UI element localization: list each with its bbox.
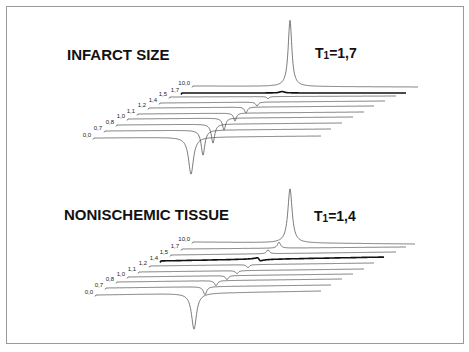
spectrum-line	[104, 129, 331, 155]
figure-canvas: INFARCT SIZE T1=1,7 10,01,71,51,41,21,11…	[0, 0, 469, 352]
series-label: 10,0	[178, 236, 190, 242]
t1-annotation: T1=1,4	[314, 208, 356, 224]
spectrum-line	[138, 269, 364, 274]
spectrum-line	[169, 96, 396, 99]
series-label: 1,0	[117, 113, 126, 119]
series-label: 1,4	[149, 97, 158, 103]
spectrum-line	[160, 257, 384, 263]
series-label: 1,0	[117, 271, 126, 277]
panel-title: NONISCHEMIC TISSUE	[64, 206, 229, 223]
spectra-stack: 10,01,71,51,41,21,11,00,80,70,0	[83, 20, 418, 174]
panel-nonischemic-tissue: NONISCHEMIC TISSUE T1=1,4 10,01,71,51,41…	[64, 189, 415, 329]
spectrum-line	[170, 250, 396, 257]
spectrum-line	[95, 291, 321, 329]
t1-annotation: T1=1,7	[315, 45, 357, 61]
spectrum-line	[181, 92, 406, 95]
spectrum-line	[93, 136, 321, 174]
series-label: 10,0	[178, 80, 190, 86]
series-label: 1,2	[138, 102, 147, 108]
spectrum-line	[127, 274, 353, 280]
series-label: 1,7	[171, 87, 180, 93]
spectrum-line	[149, 263, 374, 268]
panel-title: INFARCT SIZE	[67, 46, 170, 63]
series-label: 0,8	[106, 276, 115, 282]
series-label: 0,0	[83, 132, 92, 138]
spectrum-line	[192, 20, 418, 87]
series-label: 0,0	[85, 289, 94, 295]
spectrum-line	[137, 112, 364, 121]
spectrum-line	[159, 101, 385, 106]
series-label: 1,1	[128, 266, 137, 272]
series-label: 1,5	[160, 249, 169, 255]
series-label: 1,5	[159, 91, 168, 97]
series-label: 1,1	[127, 108, 136, 114]
spectrum-line	[127, 117, 353, 130]
series-label: 1,4	[150, 255, 159, 261]
series-label: 0,7	[95, 282, 104, 288]
series-label: 1,7	[171, 243, 180, 249]
spectrum-line	[116, 279, 342, 286]
series-label: 0,7	[94, 125, 103, 131]
series-label: 0,8	[106, 119, 115, 125]
series-label: 1,2	[139, 260, 148, 266]
panel-infarct-size: INFARCT SIZE T1=1,7 10,01,71,51,41,21,11…	[67, 20, 418, 174]
spectrum-line	[116, 123, 342, 143]
